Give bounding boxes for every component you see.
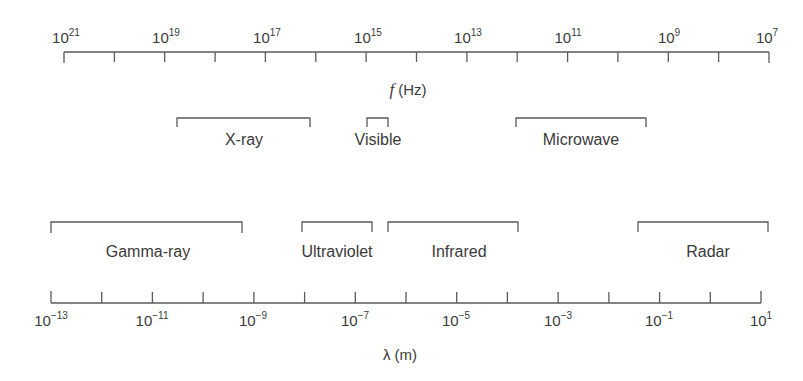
freq-label-1e11: 1011 bbox=[554, 28, 581, 46]
wave-label-1e-13: 10−13 bbox=[34, 311, 68, 329]
band-label-infrared: Infrared bbox=[431, 243, 486, 261]
wave-label-1e-3: 10−3 bbox=[544, 311, 572, 329]
band-label-microwave: Microwave bbox=[543, 131, 619, 149]
freq-label-1e21: 1021 bbox=[52, 28, 80, 46]
bracket-visible bbox=[367, 118, 388, 127]
band-label-radar: Radar bbox=[686, 243, 730, 261]
wave-label-1e-11: 10−11 bbox=[136, 311, 169, 329]
bracket-ultraviolet bbox=[302, 222, 372, 232]
frequency-axis-line bbox=[64, 52, 769, 63]
freq-label-1e7: 107 bbox=[756, 28, 778, 46]
band-label-x-ray: X-ray bbox=[225, 131, 263, 149]
wavelength-axis-title: λ (m) bbox=[383, 346, 417, 363]
freq-label-1e19: 1019 bbox=[152, 28, 180, 46]
wavelength-axis-line bbox=[51, 291, 761, 303]
wave-label-1e-5: 10−5 bbox=[442, 311, 470, 329]
wave-label-1e-1: 10−1 bbox=[645, 311, 673, 329]
bracket-microwave bbox=[516, 118, 646, 127]
bracket-radar bbox=[638, 222, 768, 232]
diagram-lines bbox=[0, 0, 803, 381]
bracket-infrared bbox=[388, 222, 518, 232]
wave-label-1e-7: 10−7 bbox=[341, 311, 369, 329]
wave-label-1e-9: 10−9 bbox=[239, 311, 267, 329]
freq-label-1e9: 109 bbox=[658, 28, 680, 46]
bracket-gamma-ray bbox=[51, 222, 242, 233]
freq-label-1e15: 1015 bbox=[354, 28, 382, 46]
freq-label-1e17: 1017 bbox=[253, 28, 281, 46]
band-label-gamma-ray: Gamma-ray bbox=[106, 243, 190, 261]
em-spectrum-diagram: 1021 1019 1017 1015 1013 1011 109 107 f … bbox=[0, 0, 803, 381]
wave-label-1e1: 101 bbox=[750, 311, 772, 329]
bracket-x-ray bbox=[177, 118, 310, 127]
band-label-visible: Visible bbox=[355, 131, 402, 149]
frequency-axis-title: f (Hz) bbox=[389, 80, 426, 100]
freq-label-1e13: 1013 bbox=[454, 28, 482, 46]
band-label-ultraviolet: Ultraviolet bbox=[301, 243, 372, 261]
